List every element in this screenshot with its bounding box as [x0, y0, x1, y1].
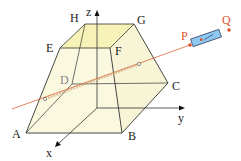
- intersection-point-2: [137, 62, 140, 65]
- frustum-diagram: H G E F D C A B z y x P Q: [0, 0, 241, 161]
- label-c: C: [172, 79, 180, 93]
- label-h: H: [70, 11, 79, 25]
- label-f: F: [115, 44, 122, 58]
- label-g: G: [137, 13, 146, 27]
- label-a: A: [12, 127, 21, 141]
- label-e: E: [46, 41, 53, 55]
- label-q: Q: [222, 13, 231, 27]
- intersection-point-1: [43, 97, 46, 100]
- cylinder-pq: [191, 29, 222, 46]
- y-axis-arrow-icon: [179, 106, 185, 111]
- point-q: [227, 28, 231, 32]
- label-p: P: [181, 29, 188, 43]
- z-axis-arrow-icon: [95, 10, 100, 16]
- label-x: x: [46, 146, 52, 160]
- label-d: D: [60, 73, 69, 87]
- label-y: y: [178, 111, 184, 125]
- point-p: [188, 43, 192, 47]
- front-face: [26, 48, 122, 133]
- label-b: B: [128, 129, 136, 143]
- label-z: z: [86, 5, 91, 19]
